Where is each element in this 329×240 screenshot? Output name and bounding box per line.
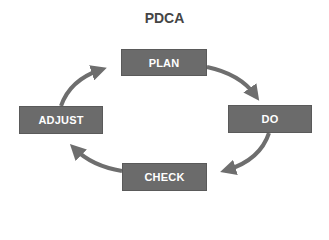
arrow-do-to-check bbox=[227, 133, 269, 170]
arrow-check-to-adjust bbox=[75, 149, 122, 171]
step-adjust: ADJUST bbox=[19, 106, 103, 134]
arrow-adjust-to-plan bbox=[61, 70, 100, 106]
step-do: DO bbox=[228, 105, 312, 133]
step-check: CHECK bbox=[122, 163, 207, 191]
arrow-plan-to-do bbox=[207, 67, 255, 95]
step-plan: PLAN bbox=[121, 49, 207, 76]
